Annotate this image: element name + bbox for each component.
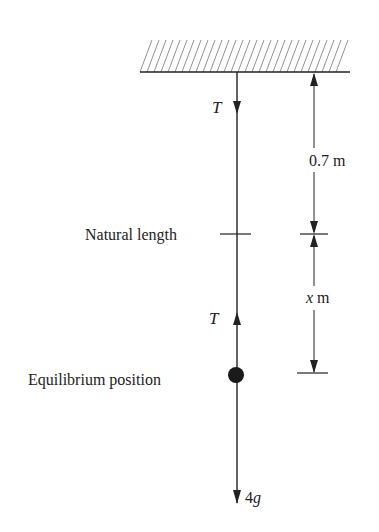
tension-bottom-arrow-icon — [233, 312, 241, 325]
tension-top-arrow-icon — [233, 101, 241, 114]
diagram-canvas: T Natural length T Equilibrium position … — [0, 0, 379, 532]
upper-length-label: 0.7 m — [309, 152, 346, 169]
mass-particle — [228, 367, 244, 383]
upper-dimension-top-arrow-icon — [310, 73, 318, 86]
extension-bottom-arrow-icon — [310, 360, 318, 373]
extension-label: x m — [305, 289, 330, 306]
equilibrium-position-label: Equilibrium position — [28, 371, 161, 389]
natural-length-label: Natural length — [85, 226, 177, 244]
tension-bottom-label: T — [209, 309, 220, 328]
tension-top-label: T — [212, 98, 223, 117]
weight-arrow-icon — [233, 490, 241, 504]
upper-dimension-bottom-arrow-icon — [310, 221, 318, 234]
weight-label: 4g — [245, 489, 261, 507]
ceiling-hatch — [140, 40, 348, 72]
